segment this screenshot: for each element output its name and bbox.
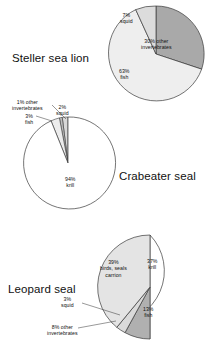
- slice-krill: [24, 117, 116, 209]
- wedge-label-leopard-squid: 3%squid: [61, 296, 74, 309]
- wedge-label-crabeater-squid: 2%squid: [56, 104, 69, 117]
- wedge-label-steller-squid: 7%squid: [120, 12, 133, 25]
- pie-svg-crabeater: [18, 113, 118, 213]
- wedge-label-crabeater-krill: 94%krill: [65, 176, 76, 189]
- wedge-label-crabeater-fish: 3%fish: [25, 113, 33, 126]
- species-label-crabeater-seal: Crabeater seal: [119, 170, 196, 182]
- species-label-steller-sea-lion: Steller sea lion: [12, 52, 89, 64]
- leader-lines-leopard: [76, 299, 128, 335]
- wedge-label-leopard-fish: 13%fish: [143, 306, 154, 319]
- wedge-label-leopard-krill: 37%krill: [147, 258, 158, 271]
- wedge-label-leopard-other-invertebrates: 8% otherinvertebrates: [47, 324, 78, 337]
- pie-chart-figure: Steller sea lion 7%squid 30% otherinvert…: [0, 0, 221, 354]
- wedge-label-steller-fish: 63%fish: [119, 68, 130, 81]
- wedge-label-steller-other-invertebrates: 30% otherinvertebrates: [141, 38, 172, 51]
- species-label-leopard-seal: Leopard seal: [8, 283, 76, 295]
- wedge-label-leopard-birds-seals-carrion: 39%birds, sealscarrion: [100, 259, 127, 278]
- pie-chart-crabeater-seal: [18, 113, 118, 213]
- wedge-label-crabeater-other-invertebrates: 1% otherinvertebrates: [12, 99, 43, 112]
